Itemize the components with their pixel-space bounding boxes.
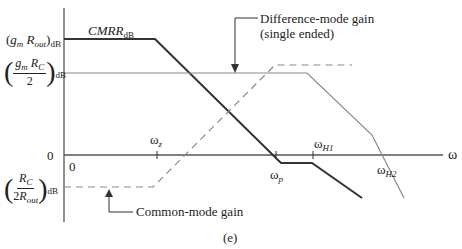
cmrr-label: CMRRdB [88, 24, 134, 40]
common-mode-arrowhead [105, 189, 113, 197]
common-mode-pointer [109, 195, 133, 212]
tick-label-wz: ωz [150, 133, 162, 149]
tick-label-wh2: ωH2 [377, 163, 397, 179]
difference-mode-arrowhead [231, 64, 239, 73]
label-gm-rout-db: (gm Rout)dB [6, 33, 61, 49]
label-rc-2rout-db: (RC2Rout)dB [4, 172, 58, 205]
origin-label: 0 [69, 160, 76, 173]
label-gm-rc-half-db: (gm RC2)dB [4, 57, 66, 87]
difference-mode-pointer [235, 18, 258, 68]
label-zero-db: 0 [47, 149, 54, 162]
common-mode-label: Common-mode gain [136, 205, 243, 218]
tick-label-wp: ωp [270, 168, 283, 184]
tick-label-wh1: ωH1 [314, 137, 334, 153]
difference-mode-curve [64, 73, 404, 198]
x-axis-label-omega: ω [448, 148, 457, 162]
difference-mode-label: Difference-mode gain (single ended) [260, 11, 374, 41]
figure-caption: (e) [223, 231, 237, 244]
common-mode-curve [64, 65, 352, 187]
cmrr-curve [64, 39, 362, 198]
